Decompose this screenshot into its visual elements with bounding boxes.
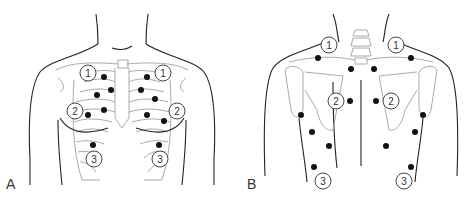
- svg-text:3: 3: [320, 176, 326, 187]
- svg-text:1: 1: [160, 68, 166, 79]
- posterior-chest-illustration: 1 1 2 2 3 3: [233, 0, 466, 198]
- panel-b-posterior: 1 1 2 2 3 3 B: [233, 0, 466, 198]
- marker-b-1-right: 1: [388, 37, 404, 53]
- panel-label-a: A: [6, 176, 15, 192]
- anterior-chest-illustration: 1 1 2 2 3 3: [0, 0, 233, 198]
- svg-text:3: 3: [157, 154, 163, 165]
- marker-b-1-left: 1: [321, 37, 337, 53]
- panel-label-b: B: [247, 176, 256, 192]
- marker-a-2-right: 2: [67, 103, 83, 119]
- svg-text:3: 3: [91, 154, 97, 165]
- marker-a-2-left: 2: [169, 103, 185, 119]
- numbered-markers: 1 1 2 2 3 3: [315, 37, 412, 189]
- svg-text:2: 2: [72, 106, 78, 117]
- svg-text:2: 2: [388, 96, 394, 107]
- panel-a-anterior: 1 1 2 2 3 3 A: [0, 0, 233, 198]
- svg-text:3: 3: [401, 176, 407, 187]
- svg-text:1: 1: [85, 68, 91, 79]
- auscultation-points: [85, 74, 167, 148]
- marker-a-1-left: 1: [155, 65, 171, 81]
- marker-a-3-right: 3: [86, 151, 102, 167]
- svg-text:2: 2: [174, 106, 180, 117]
- body-outline: [264, 14, 457, 182]
- marker-b-3-right: 3: [396, 173, 412, 189]
- svg-text:2: 2: [333, 96, 339, 107]
- marker-a-1-right: 1: [80, 65, 96, 81]
- numbered-markers: 1 1 2 2 3 3: [67, 65, 185, 167]
- marker-b-2-left: 2: [328, 93, 344, 109]
- svg-text:1: 1: [326, 40, 332, 51]
- svg-text:1: 1: [393, 40, 399, 51]
- marker-b-3-left: 3: [315, 173, 331, 189]
- body-outline: [29, 14, 214, 185]
- marker-b-2-right: 2: [383, 93, 399, 109]
- marker-a-3-left: 3: [152, 151, 168, 167]
